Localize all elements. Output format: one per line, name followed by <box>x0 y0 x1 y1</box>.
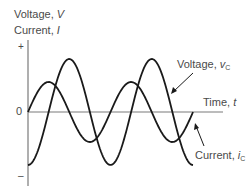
y-plus-tick: + <box>18 42 24 52</box>
x-label-text: Time, <box>203 96 233 108</box>
current-curve-label: Current, iC <box>195 150 245 162</box>
current-pointer-arrow <box>196 126 204 146</box>
voltage-label-sub: C <box>225 64 230 71</box>
voltage-arrowhead-icon <box>171 87 177 94</box>
y-axis-label-voltage: Voltage, V <box>14 9 64 20</box>
x-axis-label: Time, t <box>203 97 236 108</box>
y-label-current-text: Current, <box>14 24 57 36</box>
current-label-text: Current, <box>195 149 238 161</box>
y-zero-tick: 0 <box>16 106 22 117</box>
y-label-current-var: I <box>57 24 60 36</box>
voltage-pointer-arrow <box>173 73 193 92</box>
y-label-voltage-var: V <box>57 8 64 20</box>
voltage-curve-label: Voltage, vC <box>177 59 230 71</box>
y-minus-tick: – <box>18 171 24 181</box>
current-label-sub: C <box>240 155 245 162</box>
y-label-voltage-text: Voltage, <box>14 8 57 20</box>
x-label-var: t <box>233 96 236 108</box>
current-arrowhead-icon <box>194 123 199 130</box>
voltage-label-text: Voltage, <box>177 58 220 70</box>
y-axis-label-current: Current, I <box>14 25 60 36</box>
